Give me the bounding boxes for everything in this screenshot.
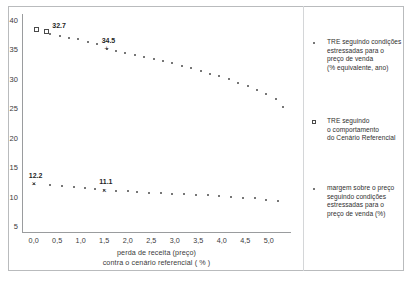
data-point <box>181 65 183 67</box>
x-tick-label: 1,5 <box>93 236 115 245</box>
x-tick-label: 3,0 <box>164 236 186 245</box>
legend-label-line: TRE seguindo condições <box>327 38 415 47</box>
legend-label-line: estressadas para o <box>327 201 415 210</box>
data-point <box>160 192 162 194</box>
data-point <box>94 188 96 190</box>
legend-label-line: do Cenário Referencial <box>327 134 415 143</box>
data-point <box>68 37 70 39</box>
data-point-label: 11.1 <box>99 178 112 185</box>
data-point <box>59 35 61 37</box>
data-point <box>73 186 75 188</box>
x-tick-label: 2,5 <box>140 236 162 245</box>
data-point <box>87 41 89 43</box>
x-tick-label: 2,0 <box>117 236 139 245</box>
y-tick-label: 20 <box>2 134 18 143</box>
legend-label-line: TRE seguindo <box>327 117 415 126</box>
data-point <box>148 192 150 194</box>
legend-label: margem sobre o preçoseguindo condiçõeses… <box>327 184 415 218</box>
x-tick-label: 3,5 <box>187 236 209 245</box>
x-axis-line <box>22 232 291 233</box>
x-axis-title-line2: contra o cenário referencial ( % ) <box>22 258 291 267</box>
data-point <box>282 106 284 108</box>
data-point-label: 32.7 <box>52 22 66 29</box>
x-axis-title-line1: perda de receita (preço) <box>22 248 291 257</box>
x-tick-label: 0,0 <box>23 236 45 245</box>
data-point <box>153 58 155 60</box>
data-point <box>275 98 277 100</box>
x-tick-label: 5,0 <box>258 236 280 245</box>
plus-marker-icon: + <box>103 45 110 52</box>
legend-label-line: preço de venda <box>327 55 415 64</box>
y-tick-label: 25 <box>2 104 18 113</box>
legend-label-line: margem sobre o preço <box>327 184 415 193</box>
data-point <box>115 190 117 192</box>
x-tick-label: 1,0 <box>70 236 92 245</box>
x-tick-label: 0,5 <box>46 236 68 245</box>
dot-glyph <box>313 42 315 44</box>
legend-square-marker-icon <box>310 118 318 126</box>
data-point <box>230 196 232 198</box>
legend-divider <box>303 6 304 271</box>
x-tick-label: 4,5 <box>234 236 256 245</box>
chart-figure: 403530252015105 0,00,51,01,52,02,53,03,5… <box>0 0 415 284</box>
legend-label-line: estressadas para o <box>327 47 415 56</box>
legend-label: TRE seguindo condiçõesestressadas para o… <box>327 38 415 72</box>
data-point <box>200 70 202 72</box>
y-tick-label: 35 <box>2 45 18 54</box>
y-tick-label: 40 <box>2 16 18 25</box>
data-point <box>34 27 39 32</box>
legend-label-line: seguindo condições <box>327 193 415 202</box>
data-point-label: 12.2 <box>29 172 43 179</box>
cross-marker-icon: × <box>30 180 37 187</box>
data-point <box>209 73 211 75</box>
legend-dot-marker-icon <box>310 39 318 47</box>
data-point <box>195 194 197 196</box>
x-tick-label: 4,0 <box>211 236 233 245</box>
legend-label: TRE seguindoo comportamentodo Cenário Re… <box>327 117 415 143</box>
legend-cross-marker-icon <box>310 185 318 193</box>
y-tick-label: 15 <box>2 163 18 172</box>
data-point <box>44 29 49 34</box>
cross-glyph <box>313 188 315 190</box>
y-tick-label: 10 <box>2 193 18 202</box>
legend-label-line: (% equivalente, ano) <box>327 64 415 73</box>
y-tick-label: 5 <box>2 222 18 231</box>
cross-marker-icon: × <box>101 187 108 194</box>
data-point <box>242 197 244 199</box>
data-point-label: 34.5 <box>102 37 116 44</box>
legend-label-line: preço de venda (%) <box>327 210 415 219</box>
legend-label-line: o comportamento <box>327 126 415 135</box>
y-axis-line <box>22 14 23 233</box>
square-glyph <box>312 120 316 124</box>
y-tick-label: 30 <box>2 75 18 84</box>
